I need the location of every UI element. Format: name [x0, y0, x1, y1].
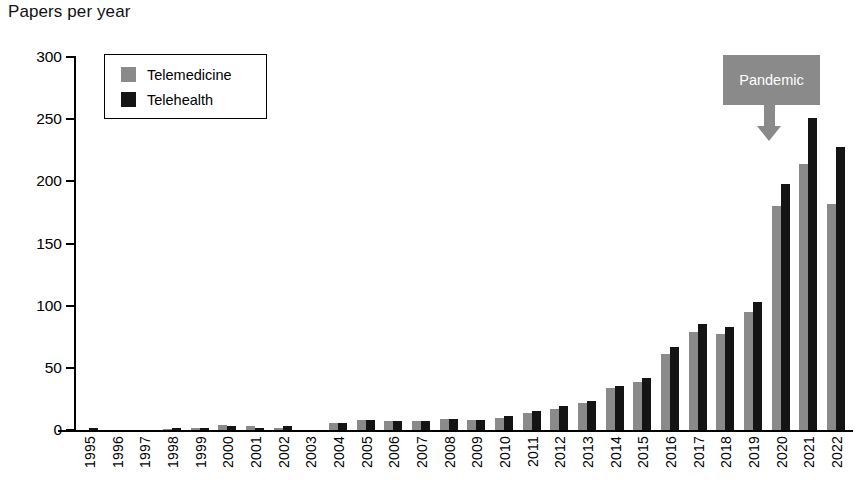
legend-item-telemedicine: Telemedicine: [121, 62, 266, 87]
bar-telemedicine-2010: [495, 418, 504, 430]
bar-telemedicine-2013: [578, 403, 587, 430]
bar-group: [546, 57, 574, 430]
bar-telemedicine-2022: [827, 204, 836, 430]
y-tick-label: 200: [0, 172, 62, 190]
bar-group: [435, 57, 463, 430]
bar-telemedicine-2018: [716, 334, 725, 430]
bar-telemedicine-2006: [384, 421, 393, 430]
bar-telehealth-2014: [615, 386, 624, 430]
x-tick-label: 2022: [829, 436, 845, 468]
y-tick: [66, 367, 75, 369]
pandemic-callout-box: Pandemic: [723, 55, 820, 105]
y-tick: [66, 56, 75, 58]
bar-telehealth-2016: [670, 347, 679, 430]
bar-telehealth-1995: [89, 428, 98, 430]
bar-telehealth-2000: [227, 426, 236, 430]
bar-telemedicine-2021: [799, 164, 808, 430]
bar-telemedicine-2015: [633, 382, 642, 430]
page-title: Papers per year: [8, 2, 130, 22]
bar-telehealth-2019: [753, 302, 762, 430]
bar-telehealth-2013: [587, 401, 596, 430]
bar-telehealth-2020: [781, 184, 790, 430]
x-tick-label: 2017: [691, 436, 707, 468]
x-tick-label: 2018: [718, 436, 734, 468]
bar-group: [269, 57, 297, 430]
y-tick-label: 100: [0, 297, 62, 315]
x-tick-label: 2002: [276, 436, 292, 468]
x-tick-label: 2000: [220, 436, 236, 468]
bar-telemedicine-2001: [246, 426, 255, 430]
bar-group: [684, 57, 712, 430]
bar-telehealth-2012: [559, 406, 568, 430]
x-tick-label: 2009: [469, 436, 485, 468]
y-tick-label: 50: [0, 359, 62, 377]
bar-group: [75, 57, 103, 430]
legend-label-telemedicine: Telemedicine: [147, 67, 232, 83]
pandemic-label: Pandemic: [739, 72, 803, 88]
x-tick-label: 2001: [248, 436, 264, 468]
x-tick-label: 2015: [635, 436, 651, 468]
bar-telemedicine-2009: [467, 420, 476, 430]
x-tick-label: 2003: [303, 436, 319, 468]
y-tick-label: 250: [0, 110, 62, 128]
x-tick-label: 1997: [137, 436, 153, 468]
bar-telemedicine-2019: [744, 312, 753, 430]
bar-group: [324, 57, 352, 430]
bar-group: [518, 57, 546, 430]
x-tick-label: 2011: [525, 436, 541, 467]
y-tick: [66, 180, 75, 182]
bar-telemedicine-2011: [523, 413, 532, 430]
x-tick-label: 2008: [442, 436, 458, 468]
x-tick-label: 2013: [580, 436, 596, 468]
bar-telemedicine-2012: [550, 409, 559, 430]
bar-telehealth-2008: [449, 419, 458, 430]
legend-label-telehealth: Telehealth: [147, 92, 213, 108]
bar-telehealth-2011: [532, 411, 541, 430]
x-tick-label: 2021: [801, 436, 817, 468]
bar-group: [601, 57, 629, 430]
bar-telehealth-2004: [338, 423, 347, 430]
legend-item-telehealth: Telehealth: [121, 87, 266, 112]
bar-telehealth-2010: [504, 416, 513, 430]
x-tick-label: 2005: [359, 436, 375, 468]
bar-telehealth-2017: [698, 324, 707, 430]
bar-group: [296, 57, 324, 430]
legend-swatch-telemedicine-icon: [121, 67, 136, 82]
bar-group: [656, 57, 684, 430]
bar-telemedicine-2014: [606, 388, 615, 430]
bar-telemedicine-1998: [163, 429, 172, 430]
bar-telemedicine-2000: [218, 425, 227, 430]
bar-telehealth-2009: [476, 420, 485, 430]
bar-telehealth-2001: [255, 428, 264, 430]
bar-telehealth-2022: [836, 147, 845, 430]
y-tick-label: 300: [0, 48, 62, 66]
bar-telehealth-1999: [200, 428, 209, 430]
y-tick: [66, 118, 75, 120]
bar-group: [629, 57, 657, 430]
x-axis-line: [58, 430, 853, 432]
bar-telehealth-2015: [642, 378, 651, 430]
bar-telehealth-2007: [421, 421, 430, 430]
legend-swatch-telehealth-icon: [121, 92, 136, 107]
bar-telehealth-2021: [808, 118, 817, 430]
bar-telemedicine-2004: [329, 423, 338, 430]
x-tick-label: 2004: [331, 436, 347, 468]
bar-telemedicine-2017: [689, 332, 698, 430]
bar-group: [352, 57, 380, 430]
x-tick-label: 1995: [82, 436, 98, 468]
y-tick-label: 150: [0, 235, 62, 253]
x-tick-label: 1998: [165, 436, 181, 468]
x-tick-label: 2006: [386, 436, 402, 468]
pandemic-annotation: Pandemic: [723, 55, 820, 143]
y-tick: [66, 429, 75, 431]
bar-telemedicine-1999: [191, 428, 200, 430]
bar-telehealth-2018: [725, 327, 734, 430]
x-tick-label: 2007: [414, 436, 430, 468]
bar-telemedicine-2008: [440, 419, 449, 430]
bar-telemedicine-2020: [772, 206, 781, 430]
bar-group: [463, 57, 491, 430]
y-tick: [66, 305, 75, 307]
bar-group: [573, 57, 601, 430]
bar-telemedicine-2002: [274, 428, 283, 430]
x-tick-label: 2020: [774, 436, 790, 468]
